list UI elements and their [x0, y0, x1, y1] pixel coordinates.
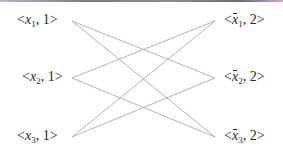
node-open-bracket: < — [224, 12, 232, 27]
node-x1-1: <x1, 1> — [17, 12, 58, 29]
node-subscript: 2 — [36, 76, 41, 86]
node-label-rest: , 1> — [36, 12, 58, 27]
node-x3-1: <x3, 1> — [17, 128, 58, 145]
node-open-bracket: < — [224, 69, 232, 84]
node-label-rest: , 1> — [41, 69, 63, 84]
node-label-rest: , 2> — [243, 12, 265, 27]
node-subscript: 3 — [31, 135, 36, 145]
node-open-bracket: < — [17, 128, 25, 143]
node-subscript: 3 — [238, 135, 243, 145]
node-subscript: 1 — [238, 19, 243, 29]
node-label-rest: , 2> — [243, 69, 265, 84]
node-open-bracket: < — [22, 69, 30, 84]
node-open-bracket: < — [17, 12, 25, 27]
node-xbar3-2: <x3, 2> — [224, 128, 265, 145]
node-subscript: 2 — [238, 76, 243, 86]
node-open-bracket: < — [224, 128, 232, 143]
node-label-rest: , 1> — [36, 128, 58, 143]
node-xbar1-2: <x1, 2> — [224, 12, 265, 29]
node-x2-1: <x2, 1> — [22, 69, 63, 86]
node-label-rest: , 2> — [243, 128, 265, 143]
node-subscript: 1 — [31, 19, 36, 29]
node-xbar2-2: <x2, 2> — [224, 69, 265, 86]
